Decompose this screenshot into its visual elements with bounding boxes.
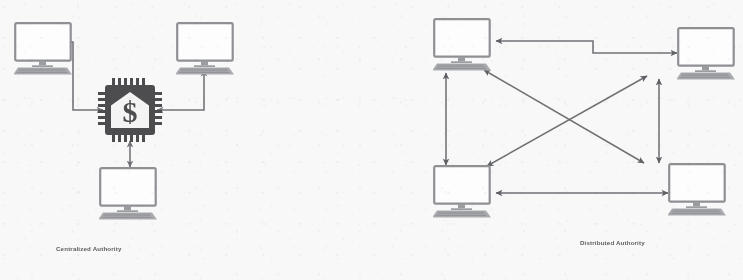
monitor-top-right	[175, 23, 234, 74]
panel-centralized-authority: $ Centralized Authority	[0, 0, 372, 280]
cpu-chip-bank-dollar-icon	[98, 78, 162, 142]
monitor-bottom-center	[98, 168, 157, 219]
monitor-bottom-left	[432, 166, 491, 217]
monitor-top-left	[432, 19, 491, 70]
link-top-right-monitor-to-chip	[157, 70, 204, 110]
monitor-top-right	[676, 28, 735, 79]
monitor-top-left	[13, 23, 72, 74]
caption-distributed-authority: Distributed Authority	[580, 239, 645, 246]
monitor-bottom-right	[667, 164, 726, 215]
panel-distributed-authority	[371, 0, 743, 280]
link-top-left-to-top-right	[496, 41, 677, 53]
caption-centralized-authority: Centralized Authority	[56, 245, 122, 252]
centralized-diagram-svg: $	[0, 0, 372, 280]
figure-canvas: $ Centralized Authority	[0, 0, 743, 280]
link-top-right-to-bottom-left	[487, 76, 647, 166]
link-top-left-to-bottom-right	[484, 70, 644, 163]
distributed-diagram-svg	[371, 0, 743, 280]
